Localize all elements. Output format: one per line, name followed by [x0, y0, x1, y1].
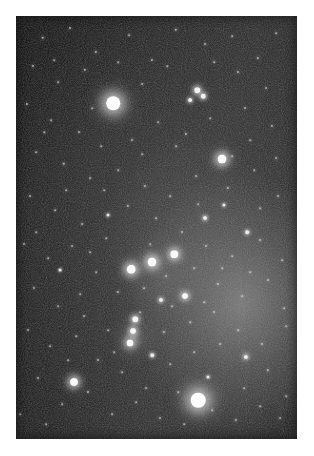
background-star: [69, 27, 71, 29]
background-star: [83, 315, 85, 317]
star-field: [16, 16, 297, 439]
background-star: [113, 351, 115, 353]
background-star: [277, 195, 279, 197]
star-pi-orionis: [182, 293, 188, 299]
background-star: [26, 103, 28, 105]
background-star: [183, 423, 185, 425]
background-star: [63, 163, 65, 165]
background-star: [197, 203, 199, 205]
background-star: [275, 157, 277, 159]
background-star: [195, 175, 197, 177]
background-star: [67, 359, 69, 361]
background-star: [135, 401, 137, 403]
star-alnitak: [127, 265, 136, 274]
background-star: [259, 239, 261, 241]
background-star: [209, 117, 211, 119]
background-star: [151, 59, 153, 61]
background-star: [217, 283, 219, 285]
background-star: [61, 403, 63, 405]
background-star: [103, 189, 105, 191]
background-star: [219, 343, 221, 345]
background-star: [100, 145, 102, 147]
background-star: [267, 369, 269, 371]
background-star: [257, 57, 259, 59]
background-star: [193, 351, 195, 353]
background-star: [181, 231, 183, 233]
background-star: [249, 139, 251, 141]
background-star: [91, 107, 93, 109]
background-star: [169, 363, 171, 365]
background-star: [211, 409, 213, 411]
background-star: [27, 329, 29, 331]
star-betelgeuse: [106, 96, 120, 110]
background-star: [105, 237, 107, 239]
background-star: [149, 243, 151, 245]
background-star: [163, 331, 165, 333]
star-tau-orionis: [244, 355, 248, 359]
background-star: [53, 59, 55, 61]
background-star: [285, 325, 287, 327]
background-star: [19, 413, 21, 415]
background-star: [237, 71, 239, 73]
background-star: [127, 205, 129, 207]
star-rho-orionis: [59, 269, 62, 272]
background-star: [285, 395, 287, 397]
background-star: [259, 207, 261, 209]
background-star: [81, 223, 83, 225]
star-psi-orionis: [207, 376, 210, 379]
background-star: [175, 145, 177, 147]
background-star: [265, 87, 267, 89]
star-mintaka: [170, 250, 178, 258]
background-star: [95, 271, 97, 273]
background-star: [241, 295, 243, 297]
background-star: [204, 43, 206, 45]
background-star: [57, 81, 59, 83]
background-star: [87, 391, 89, 393]
photo-frame: [16, 16, 297, 439]
background-star: [37, 377, 39, 379]
background-star: [157, 121, 159, 123]
background-star: [43, 131, 45, 133]
background-star: [171, 305, 173, 307]
background-star: [71, 245, 73, 247]
background-star: [107, 329, 109, 331]
background-star: [42, 37, 44, 39]
star-bellatrix: [218, 155, 227, 164]
background-star: [95, 51, 97, 53]
background-star: [89, 251, 91, 253]
background-star: [143, 287, 145, 289]
background-star: [45, 423, 47, 425]
background-star: [205, 245, 207, 247]
background-star: [84, 69, 86, 71]
star-chi-orionis: [245, 230, 249, 234]
background-star: [117, 291, 119, 293]
star-saiph: [70, 378, 78, 386]
star-meissa-b: [201, 94, 206, 99]
background-star: [50, 119, 52, 121]
background-star: [35, 151, 37, 153]
background-star: [281, 259, 283, 261]
background-star: [117, 61, 119, 63]
background-star: [159, 417, 161, 419]
background-star: [141, 83, 143, 85]
background-star: [213, 61, 215, 63]
background-star: [243, 387, 245, 389]
star-meissa-a: [194, 87, 200, 93]
star-omega-orionis: [107, 214, 110, 217]
background-star: [249, 271, 251, 273]
background-star: [47, 257, 49, 259]
background-star: [185, 133, 187, 135]
background-star: [283, 307, 285, 309]
background-star: [275, 32, 277, 34]
background-star: [221, 267, 223, 269]
background-star: [166, 65, 168, 67]
background-star: [139, 311, 141, 313]
background-star: [23, 243, 25, 245]
background-star: [169, 195, 171, 197]
background-star: [244, 107, 246, 109]
background-star: [231, 255, 233, 257]
background-star: [97, 359, 99, 361]
star-meissa-c: [188, 98, 192, 102]
background-star: [33, 287, 35, 289]
background-star: [175, 29, 177, 31]
